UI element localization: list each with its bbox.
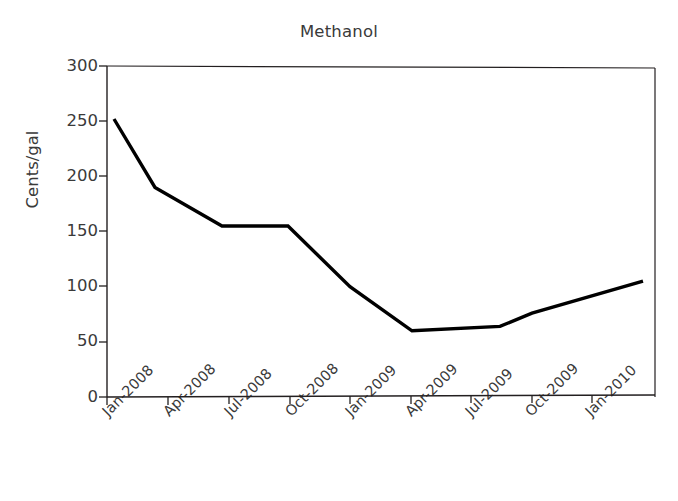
plot-area	[0, 0, 678, 501]
chart-figure: Methanol Cents/gal 300 250 200 150 100 5…	[0, 0, 678, 501]
data-series-methanol	[114, 119, 643, 331]
y-axis-ticks	[99, 66, 107, 397]
axis-frame	[107, 66, 655, 397]
